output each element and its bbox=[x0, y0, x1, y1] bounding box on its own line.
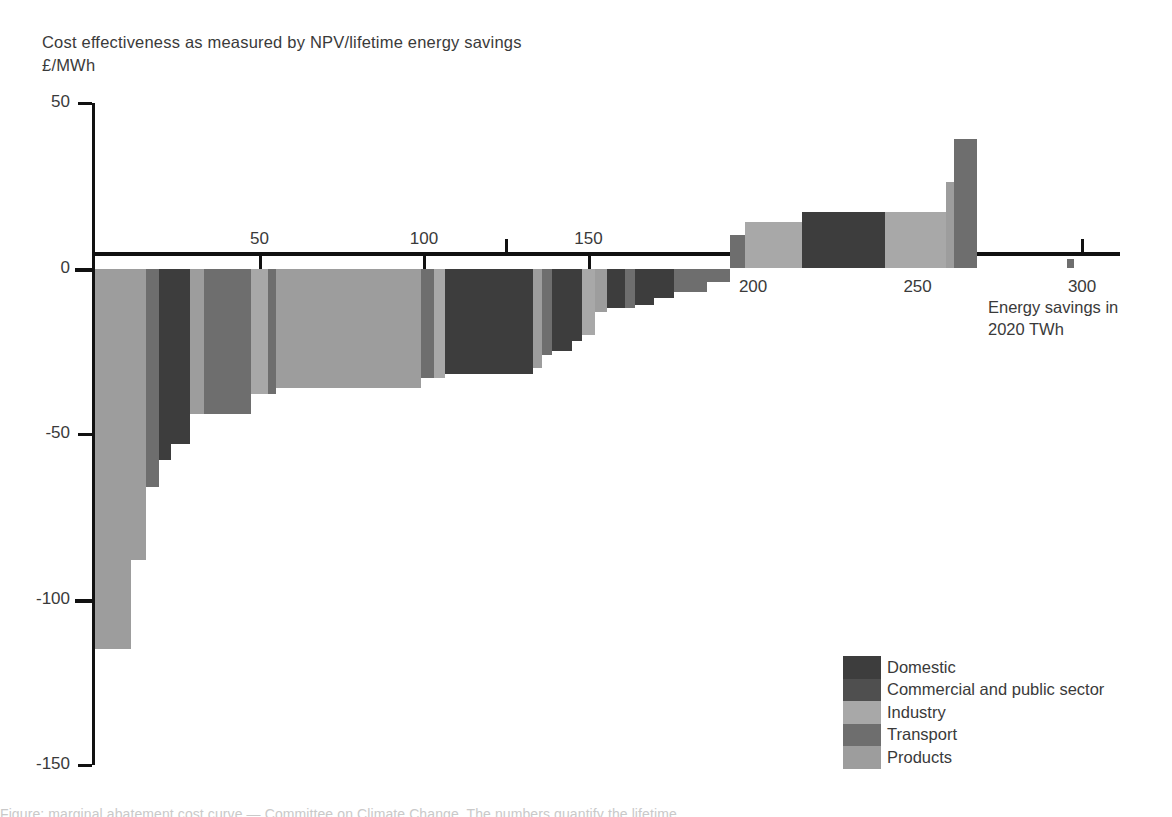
bar-17-domestic bbox=[572, 269, 582, 342]
y-tick-label--150: -150 bbox=[10, 754, 70, 774]
y-tick-label-50: 50 bbox=[10, 92, 70, 112]
legend: DomesticCommercial and public sectorIndu… bbox=[843, 656, 1104, 769]
y-tick-0 bbox=[75, 268, 92, 272]
bar-10-transport bbox=[421, 269, 434, 378]
legend-swatch-icon bbox=[843, 746, 881, 769]
bar-26-transport bbox=[730, 235, 745, 268]
y-tick-label--100: -100 bbox=[10, 589, 70, 609]
legend-item-commercial-and-public-sector[interactable]: Commercial and public sector bbox=[843, 679, 1104, 702]
legend-label: Products bbox=[887, 748, 952, 767]
y-tick--100 bbox=[75, 599, 92, 603]
legend-item-domestic[interactable]: Domestic bbox=[843, 656, 1104, 679]
bar-3-domestic bbox=[159, 269, 171, 461]
bar-9-products bbox=[276, 269, 421, 388]
legend-swatch-icon bbox=[843, 724, 881, 747]
bar-4-domestic bbox=[171, 269, 191, 444]
y-tick--50 bbox=[78, 433, 92, 436]
x-tick-100 bbox=[423, 256, 426, 269]
bar-22-domestic bbox=[635, 269, 655, 305]
legend-item-transport[interactable]: Transport bbox=[843, 724, 1104, 747]
bar-13-domestic bbox=[464, 269, 533, 375]
chart-units-label: £/MWh bbox=[42, 56, 95, 75]
legend-item-industry[interactable]: Industry bbox=[843, 701, 1104, 724]
bar-5-products bbox=[190, 269, 203, 415]
bar-7-industry bbox=[251, 269, 267, 395]
y-tick-50 bbox=[78, 102, 92, 105]
legend-label: Commercial and public sector bbox=[887, 680, 1104, 699]
x-tick-label-250: 250 bbox=[883, 277, 953, 297]
bar-15-transport bbox=[542, 269, 552, 355]
legend-swatch-icon bbox=[843, 679, 881, 702]
bar-28-domestic bbox=[802, 212, 884, 268]
bar-19-products bbox=[595, 269, 607, 312]
legend-swatch-icon bbox=[843, 701, 881, 724]
bar-18-industry bbox=[582, 269, 595, 335]
bar-6-transport bbox=[204, 269, 252, 415]
bar-11-industry bbox=[434, 269, 446, 378]
legend-label: Industry bbox=[887, 703, 946, 722]
x-axis-title-line2: 2020 TWh bbox=[988, 318, 1118, 340]
bar-12-domestic bbox=[445, 269, 463, 375]
x-tick-300 bbox=[1081, 239, 1084, 252]
bar-0-products bbox=[95, 269, 131, 650]
legend-label: Transport bbox=[887, 725, 957, 744]
chart-title-line1: Cost effectiveness as measured by NPV/li… bbox=[42, 33, 522, 52]
x-axis-title: Energy savings in 2020 TWh bbox=[988, 296, 1118, 340]
x-tick-label-100: 100 bbox=[389, 229, 459, 249]
bar-31-transport bbox=[954, 139, 977, 268]
bar-2-transport bbox=[146, 269, 159, 487]
y-tick--150 bbox=[78, 764, 92, 767]
y-tick-label--50: -50 bbox=[10, 423, 70, 443]
bar-30-products bbox=[946, 182, 954, 268]
bar-27-industry bbox=[745, 222, 803, 268]
chart-canvas: Cost effectiveness as measured by NPV/li… bbox=[0, 0, 1172, 817]
bar-24-transport bbox=[674, 269, 707, 292]
bar-20-domestic bbox=[607, 269, 625, 309]
bar-14-products bbox=[533, 269, 543, 368]
x-tick-label-300: 300 bbox=[1047, 277, 1117, 297]
bar-29-industry bbox=[885, 212, 946, 268]
legend-item-products[interactable]: Products bbox=[843, 746, 1104, 769]
bar-21-transport bbox=[625, 269, 635, 309]
y-tick-label-0: 0 bbox=[10, 258, 70, 278]
bar-32-transport bbox=[1067, 259, 1074, 269]
x-axis-title-line1: Energy savings in bbox=[988, 296, 1118, 318]
legend-swatch-icon bbox=[843, 656, 881, 679]
x-tick-label-50: 50 bbox=[225, 229, 295, 249]
bar-1-products bbox=[131, 269, 146, 560]
x-tick-150 bbox=[588, 256, 591, 269]
x-tick-minor-125 bbox=[505, 239, 508, 252]
x-tick-50 bbox=[259, 256, 262, 269]
x-tick-label-150: 150 bbox=[554, 229, 624, 249]
bar-16-domestic bbox=[552, 269, 572, 352]
legend-label: Domestic bbox=[887, 658, 956, 677]
bar-23-domestic bbox=[654, 269, 674, 299]
bar-25-transport bbox=[707, 269, 730, 282]
figure-footnote: Figure: marginal abatement cost curve — … bbox=[0, 806, 1172, 817]
bar-8-transport bbox=[268, 269, 276, 395]
